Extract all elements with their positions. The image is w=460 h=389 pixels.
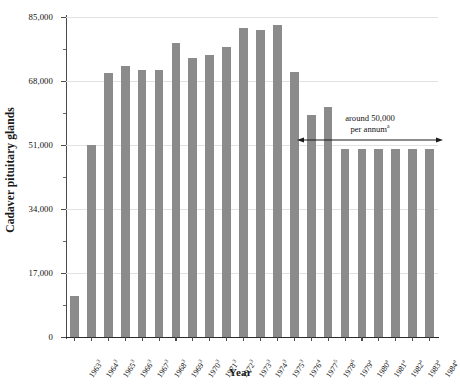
y-axis-tick-label: 0 [49,332,53,342]
x-axis-tick [429,337,430,341]
annotation-group: around 50,000per annuma [297,113,443,144]
x-axis-tick [345,337,346,341]
plot-area: 017,00034,00051,00068,00085,000196331964… [66,17,438,337]
bar [104,73,113,337]
y-axis-title: Cadaver pituitary glands [0,0,20,340]
x-axis-tick-label: 1984a [442,359,460,379]
y-axis-tick [61,145,66,146]
bar [391,149,400,337]
x-axis-tick [192,337,193,341]
bar [172,43,181,337]
x-axis-tick [209,337,210,341]
bar [290,72,299,337]
bar [121,66,130,337]
x-axis-tick [74,337,75,341]
annotation-double-arrow-icon [297,136,443,144]
x-axis-tick [277,337,278,341]
bar [256,30,265,337]
x-axis-tick [142,337,143,341]
y-axis-tick-label: 51,000 [29,140,54,150]
x-axis-tick [294,337,295,341]
y-axis-tick-label: 85,000 [29,12,54,22]
y-axis-minor-tick [63,241,67,242]
annotation-label: around 50,000per annuma [297,113,443,134]
x-axis-title-label: Year [229,366,252,378]
y-axis-tick-label: 68,000 [29,76,54,86]
x-axis-tick [91,337,92,341]
y-axis-minor-tick [63,305,67,306]
x-axis-tick [328,337,329,341]
x-axis-tick [226,337,227,341]
x-axis-tick [311,337,312,341]
x-axis-tick [395,337,396,341]
bar [87,145,96,337]
y-axis-minor-tick [63,177,67,178]
x-axis-title: Year [0,366,445,378]
bar [188,58,197,337]
bar [408,149,417,337]
bar [155,70,164,337]
y-axis-tick-label: 34,000 [29,204,54,214]
bar [273,25,282,337]
bar [341,149,350,337]
y-axis-tick [61,273,66,274]
x-axis-tick [361,337,362,341]
x-axis-tick [243,337,244,341]
bar [222,47,231,337]
y-axis-title-label: Cadaver pituitary glands [4,107,16,233]
x-axis-tick [125,337,126,341]
y-axis-tick [61,209,66,210]
x-axis-tick [378,337,379,341]
x-axis-tick [159,337,160,341]
bar [205,55,214,337]
bar [358,149,367,337]
x-axis-tick [412,337,413,341]
y-axis-tick [61,17,66,18]
bar [239,28,248,337]
bar [138,70,147,337]
gridline [66,17,438,18]
bar [425,149,434,337]
y-axis-tick [61,337,66,338]
x-axis-tick [175,337,176,341]
y-axis-tick [61,81,66,82]
bar [307,115,316,337]
x-axis-tick [108,337,109,341]
bar [70,296,79,337]
x-axis-tick [260,337,261,341]
bar [374,149,383,337]
y-axis-minor-tick [63,49,67,50]
y-axis-minor-tick [63,113,67,114]
y-axis-tick-label: 17,000 [29,268,54,278]
